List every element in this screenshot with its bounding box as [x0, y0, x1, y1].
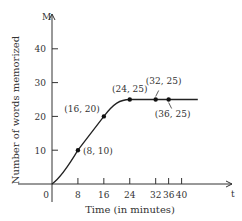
- x-axis-label: Time (in minutes): [85, 204, 175, 215]
- data-point: [166, 97, 170, 101]
- point-label: (24, 25): [112, 84, 148, 94]
- x-ticks: 081624323640: [43, 178, 187, 200]
- x-axis-name: t: [231, 189, 235, 199]
- data-point: [128, 97, 132, 101]
- y-axis-label: Number of words memorized: [10, 35, 21, 184]
- x-tick-label: 36: [163, 190, 175, 200]
- x-tick-label: 32: [150, 190, 161, 200]
- x-tick-label: 16: [98, 190, 110, 200]
- x-tick-label: 0: [43, 190, 49, 200]
- data-point: [102, 114, 106, 118]
- x-tick-label: 8: [75, 190, 81, 200]
- y-tick-label: 30: [35, 78, 47, 88]
- point-label: (36, 25): [155, 109, 191, 119]
- annotation-arrow-icon: [156, 91, 159, 97]
- point-label: (32, 25): [146, 76, 182, 86]
- y-ticks: 10203040: [35, 44, 58, 155]
- y-tick-label: 40: [35, 44, 47, 54]
- y-tick-label: 10: [35, 146, 47, 156]
- x-tick-label: 40: [176, 190, 188, 200]
- data-point: [153, 97, 157, 101]
- data-point: [76, 148, 80, 152]
- point-label: (8, 10): [83, 146, 113, 156]
- axes: [18, 14, 232, 202]
- x-tick-label: 24: [124, 190, 136, 200]
- y-axis-name: M: [42, 12, 51, 22]
- y-tick-label: 20: [35, 112, 47, 122]
- chart: 10203040 081624323640 (8, 10)(16, 20)(24…: [0, 0, 242, 221]
- point-label: (16, 20): [64, 104, 100, 114]
